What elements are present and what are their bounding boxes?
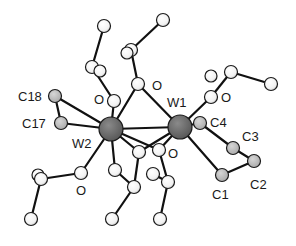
atom-cg [35, 173, 48, 186]
molecular-structure-diagram: W1W2C18C17C4C3C2C1OOOOO [0, 0, 296, 246]
atom-c3 [227, 142, 240, 155]
atom-label-o-top: O [152, 78, 162, 93]
atom-o-top [132, 78, 145, 91]
atom-c2 [248, 155, 261, 168]
atom-w1 [168, 115, 192, 139]
atom-cl [162, 176, 175, 189]
atom-ca [98, 20, 111, 33]
atom-label-c2: C2 [250, 177, 267, 192]
atom-c1 [216, 169, 229, 182]
atom-o-bot1 [133, 146, 146, 159]
atom-c17 [55, 117, 68, 130]
atom-o-bot2 [153, 144, 166, 157]
atom-ci [128, 181, 141, 194]
atom-label-c18: C18 [18, 89, 42, 104]
atom-cc [157, 14, 170, 27]
atom-cm [147, 168, 160, 181]
atom-label-o-upleft: O [94, 92, 104, 107]
atom-ce [225, 66, 238, 79]
atom-cf [265, 78, 278, 91]
atom-o-upright [205, 91, 218, 104]
atom-label-c17: C17 [22, 116, 46, 131]
atom-label-c4: C4 [210, 115, 227, 130]
atom-o-lowleft [75, 167, 88, 180]
atom-cd2 [121, 47, 133, 59]
atom-ck [106, 213, 119, 226]
atom-label-w1: W1 [167, 95, 187, 110]
atom-ch [25, 213, 38, 226]
atom-c4 [194, 117, 207, 130]
atom-cj [109, 164, 122, 177]
atom-layer [25, 14, 278, 226]
atom-c18 [49, 90, 62, 103]
atom-label-o-bot2: O [168, 146, 178, 161]
atom-label-o-lowleft: O [76, 183, 86, 198]
atom-label-o-upright: O [221, 90, 231, 105]
atom-label-w2: W2 [72, 136, 92, 151]
atom-cn [154, 213, 167, 226]
atom-o-upleft [108, 95, 121, 108]
atom-ce2 [205, 70, 217, 82]
atom-label-c1: C1 [212, 187, 229, 202]
atom-cb2 [94, 65, 106, 77]
atom-label-c3: C3 [242, 129, 259, 144]
atom-w2 [99, 117, 123, 141]
